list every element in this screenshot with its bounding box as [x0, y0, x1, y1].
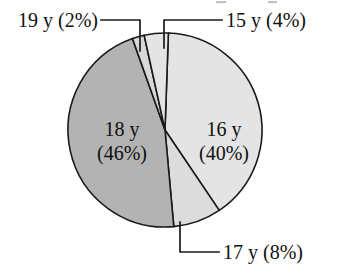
callout-label-19y: 19 y (2%) — [18, 9, 98, 32]
inside-label-18y: 18 y (46%) — [97, 118, 147, 165]
inside-label-16y-line1: 16 y — [207, 118, 242, 141]
pie-chart-svg: 19 y (2%) 15 y (4%) 17 y (8%) 18 y (46%)… — [0, 0, 343, 275]
inside-label-16y: 16 y (40%) — [199, 118, 249, 165]
callout-label-17y: 17 y (8%) — [223, 241, 303, 264]
inside-label-18y-line1: 18 y — [105, 118, 140, 141]
pie-chart-figure: 19 y (2%) 15 y (4%) 17 y (8%) 18 y (46%)… — [0, 0, 343, 275]
inside-label-16y-line2: (40%) — [199, 142, 249, 165]
callout-label-15y: 15 y (4%) — [226, 9, 306, 32]
inside-label-18y-line2: (46%) — [97, 142, 147, 165]
